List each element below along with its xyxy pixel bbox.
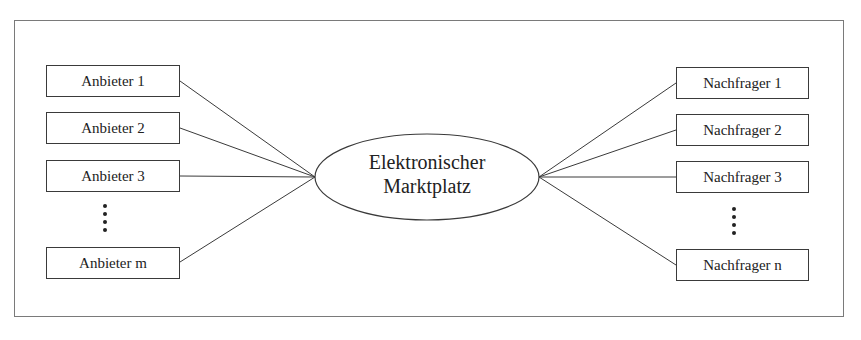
buyer-label: Nachfrager n: [703, 257, 782, 274]
buyer-label: Nachfrager 3: [703, 169, 782, 186]
supplier-box: Anbieter 2: [46, 112, 180, 144]
buyer-ellipsis-icon: [731, 207, 737, 235]
supplier-label: Anbieter m: [79, 255, 147, 272]
supplier-box: Anbieter 1: [46, 65, 180, 97]
supplier-box: Anbieter 3: [46, 160, 180, 192]
marketplace-label-line1: Elektronischer: [315, 150, 539, 174]
marketplace-label: Elektronischer Marktplatz: [315, 150, 539, 198]
buyer-box: Nachfrager n: [676, 249, 809, 281]
supplier-ellipsis-icon: [102, 204, 108, 232]
supplier-box: Anbieter m: [46, 247, 180, 279]
buyer-box: Nachfrager 1: [676, 67, 809, 99]
buyer-box: Nachfrager 3: [676, 161, 809, 193]
marketplace-label-line2: Marktplatz: [315, 174, 539, 198]
buyer-label: Nachfrager 1: [703, 75, 782, 92]
supplier-label: Anbieter 3: [81, 168, 145, 185]
supplier-label: Anbieter 1: [81, 73, 145, 90]
supplier-label: Anbieter 2: [81, 120, 145, 137]
buyer-label: Nachfrager 2: [703, 122, 782, 139]
buyer-box: Nachfrager 2: [676, 114, 809, 146]
